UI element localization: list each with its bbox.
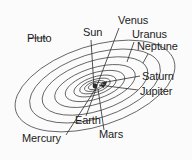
label-sun: Sun [83, 27, 102, 38]
label-jupiter: Jupiter [140, 86, 172, 97]
label-pluto: Pluto [27, 33, 52, 44]
leader-line-saturn [101, 76, 140, 83]
label-neptune: Neptune [137, 41, 178, 52]
leader-line-uranus [127, 42, 134, 62]
label-earth: Earth [75, 115, 101, 126]
solar-system-diagram: Pluto Sun Venus Uranus Neptune Saturn Ju… [0, 0, 192, 160]
label-mercury: Mercury [22, 133, 61, 144]
label-saturn: Saturn [142, 71, 174, 82]
sun-center-dot [93, 84, 98, 89]
leader-line-sun [91, 40, 94, 88]
label-venus: Venus [118, 15, 148, 26]
label-uranus: Uranus [132, 29, 167, 40]
label-mars: Mars [99, 129, 123, 140]
leader-line-neptune [143, 54, 148, 63]
leader-line-jupiter [99, 85, 138, 90]
leader-line-mercury [66, 88, 96, 135]
